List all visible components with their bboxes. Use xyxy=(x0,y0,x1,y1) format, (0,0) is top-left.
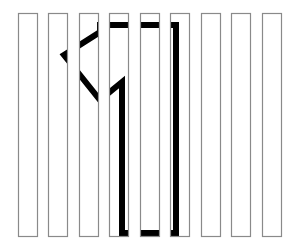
bar-5-fill xyxy=(140,13,160,237)
bar-7-fill xyxy=(201,13,221,237)
fence-diagram xyxy=(0,0,296,247)
bar-2-fill xyxy=(48,13,68,237)
bar-9-fill xyxy=(262,13,282,237)
bar-fills xyxy=(18,13,282,237)
fence-illusion-figure: Nine vertical white bars (picket fence) … xyxy=(0,0,296,247)
bar-1-fill xyxy=(18,13,38,237)
bar-8-fill xyxy=(231,13,251,237)
